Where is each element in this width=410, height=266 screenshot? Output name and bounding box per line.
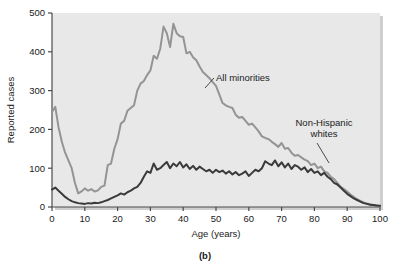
x-tick-label: 80 <box>309 213 320 224</box>
x-tick-label: 0 <box>49 213 54 224</box>
y-tick-label: 300 <box>29 85 45 96</box>
x-tick-label: 30 <box>145 213 156 224</box>
y-axis-ticks: 0100200300400500 <box>29 7 52 212</box>
x-tick-label: 60 <box>244 213 255 224</box>
y-axis-title: Reported cases <box>5 76 16 143</box>
y-tick-label: 100 <box>29 163 45 174</box>
chart-figure: 0100200300400500 0102030405060708090100 … <box>0 0 410 266</box>
series-label-all-minorities: All minorities <box>216 72 270 83</box>
y-tick-label: 500 <box>29 7 45 18</box>
series-label-non-hispanic-whites-line2: whites <box>310 128 338 139</box>
y-tick-label: 400 <box>29 46 45 57</box>
x-tick-label: 50 <box>211 213 222 224</box>
x-tick-label: 70 <box>276 213 287 224</box>
series-label-non-hispanic-whites-line1: Non-Hispanic <box>295 117 352 128</box>
y-tick-label: 200 <box>29 124 45 135</box>
figure-caption: (b) <box>199 250 211 261</box>
x-tick-label: 90 <box>342 213 353 224</box>
y-tick-label: 0 <box>40 201 45 212</box>
x-tick-label: 10 <box>80 213 91 224</box>
x-axis-title: Age (years) <box>191 228 240 239</box>
chart-svg: 0100200300400500 0102030405060708090100 … <box>0 0 410 266</box>
x-tick-label: 40 <box>178 213 189 224</box>
x-tick-label: 100 <box>372 213 388 224</box>
x-tick-label: 20 <box>112 213 123 224</box>
